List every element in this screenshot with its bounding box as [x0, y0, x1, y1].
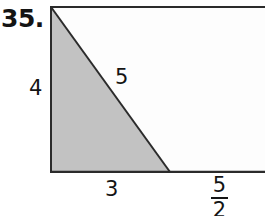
dimension-label-hypotenuse: 5	[115, 66, 128, 88]
dimension-label-triangle-base: 3	[105, 178, 118, 200]
geometry-figure	[50, 6, 265, 173]
fraction-denominator: 2	[213, 200, 226, 216]
problem-number-label: 35.	[1, 5, 44, 33]
figure-problem-canvas: 35. 4 5 3 5 2	[0, 0, 265, 216]
dimension-label-remaining-base-fraction: 5 2	[211, 176, 228, 216]
fraction-numerator: 5	[213, 176, 226, 196]
dimension-label-height: 4	[29, 77, 42, 99]
figure-svg	[50, 6, 265, 173]
